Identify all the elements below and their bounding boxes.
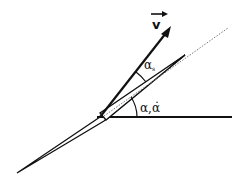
diagram-canvas — [0, 0, 246, 183]
slip-angle-arc — [136, 72, 146, 82]
slip-angle-label: αs — [144, 59, 155, 72]
vector-overbar-arrow-icon — [162, 11, 168, 17]
slip-angle-symbol: α — [144, 58, 152, 72]
angle-of-attack-arc — [131, 97, 137, 117]
body-axis-dashed-line — [104, 28, 228, 116]
slip-angle-subscript: s — [152, 65, 155, 72]
velocity-label: v — [152, 18, 160, 31]
angle-of-attack-label: α,α̇ — [140, 102, 160, 114]
